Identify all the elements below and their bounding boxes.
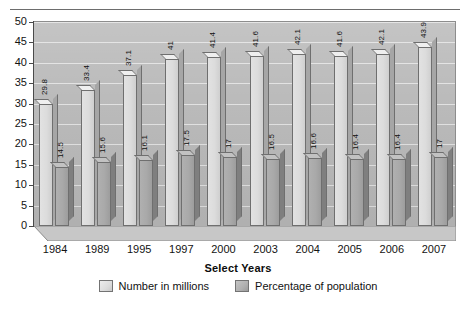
- bar-top-face: [202, 52, 221, 57]
- bar-percentage-of-population[interactable]: [223, 157, 237, 226]
- bar-value-label: 41.6: [252, 31, 260, 47]
- bar-number-in-millions[interactable]: [207, 57, 221, 226]
- bar-face: [266, 159, 280, 226]
- bar-face: [165, 59, 179, 226]
- x-axis-tick-label: 1989: [76, 243, 118, 256]
- bar-face: [55, 167, 69, 226]
- x-axis-tick-label: 1984: [34, 243, 76, 256]
- bar-value-label: 16.6: [310, 133, 318, 149]
- bar-group: 41.616.5: [250, 22, 280, 226]
- bar-percentage-of-population[interactable]: [181, 155, 195, 226]
- y-axis-tick-label: 0: [3, 220, 27, 231]
- bar-group: 41.417: [207, 22, 237, 226]
- x-axis-tick-label: 2003: [245, 243, 287, 256]
- bar-percentage-of-population[interactable]: [266, 159, 280, 226]
- y-axis-tick: [29, 226, 33, 227]
- bar-side-face: [153, 150, 158, 221]
- bar-top-face: [160, 54, 179, 59]
- bar-side-face: [406, 149, 411, 221]
- bar-percentage-of-population[interactable]: [350, 159, 364, 226]
- x-axis-tick-label: 2007: [413, 243, 455, 256]
- y-axis-tick-label: 30: [3, 98, 27, 109]
- x-axis-tick-label: 2006: [371, 243, 413, 256]
- bar-number-in-millions[interactable]: [292, 54, 306, 226]
- bar-percentage-of-population[interactable]: [434, 157, 448, 226]
- bar-percentage-of-population[interactable]: [55, 167, 69, 226]
- bar-value-label: 15.6: [99, 137, 107, 153]
- x-axis-labels: 1984198919951997200020032004200520062007: [34, 243, 455, 259]
- y-axis-tick: [29, 206, 33, 207]
- bar-top-face: [413, 42, 432, 47]
- bar-group: 42.116.6: [292, 22, 322, 226]
- y-axis-tick: [29, 144, 33, 145]
- bar-value-label: 14.5: [57, 142, 65, 158]
- x-axis-tick-label: 1995: [118, 243, 160, 256]
- bar-face: [123, 75, 137, 226]
- bar-group: 4117.5: [165, 22, 195, 226]
- bar-top-face: [245, 51, 264, 56]
- bar-value-label: 41: [167, 41, 175, 50]
- y-axis-tick-label: 35: [3, 77, 27, 88]
- bar-value-label: 42.1: [378, 29, 386, 45]
- bar-top-face: [329, 51, 348, 56]
- bar-side-face: [69, 157, 74, 221]
- y-axis-tick-label: 10: [3, 179, 27, 190]
- bar-face: [350, 159, 364, 226]
- y-axis-tick: [29, 22, 33, 23]
- bar-value-label: 17.5: [183, 130, 191, 146]
- bar-side-face: [237, 147, 242, 221]
- x-axis-title: Select Years: [0, 262, 476, 274]
- bar-top-face: [118, 70, 137, 75]
- bar-value-label: 17: [225, 139, 233, 148]
- y-axis-tick: [29, 165, 33, 166]
- bar-number-in-millions[interactable]: [39, 104, 53, 226]
- bar-side-face: [280, 149, 285, 221]
- bar-series-container: 29.814.533.415.637.116.14117.541.41741.6…: [34, 22, 455, 226]
- bar-top-face: [34, 99, 53, 104]
- legend-label-series-b: Percentage of population: [255, 280, 377, 292]
- bar-number-in-millions[interactable]: [418, 47, 432, 226]
- y-axis-tick-label: 5: [3, 200, 27, 211]
- bar-face: [207, 57, 221, 226]
- bar-side-face: [111, 152, 116, 221]
- y-axis-tick: [29, 124, 33, 125]
- bar-side-face: [448, 147, 453, 221]
- bar-percentage-of-population[interactable]: [308, 158, 322, 226]
- bar-number-in-millions[interactable]: [123, 75, 137, 226]
- bar-face: [308, 158, 322, 226]
- y-axis-tick-label: 15: [3, 159, 27, 170]
- bar-value-label: 29.8: [41, 79, 49, 95]
- bar-number-in-millions[interactable]: [250, 56, 264, 226]
- bar-percentage-of-population[interactable]: [139, 160, 153, 226]
- bar-group: 43.917: [418, 22, 448, 226]
- y-axis-tick: [29, 42, 33, 43]
- bar-face: [434, 157, 448, 226]
- bar-value-label: 41.4: [209, 32, 217, 48]
- bar-face: [181, 155, 195, 226]
- bar-value-label: 17: [436, 139, 444, 148]
- bar-chart-figure: 05101520253035404550 29.814.533.415.637.…: [0, 0, 476, 318]
- bar-top-face: [287, 49, 306, 54]
- bar-face: [376, 54, 390, 226]
- bar-percentage-of-population[interactable]: [97, 162, 111, 226]
- bar-value-label: 42.1: [294, 29, 302, 45]
- bar-top-face: [176, 150, 195, 155]
- bar-number-in-millions[interactable]: [334, 56, 348, 226]
- bar-top-face: [76, 85, 95, 90]
- bar-group: 33.415.6: [81, 22, 111, 226]
- bar-number-in-millions[interactable]: [165, 59, 179, 226]
- bar-value-label: 33.4: [83, 65, 91, 81]
- chart-legend: Number in millions Percentage of populat…: [0, 280, 476, 292]
- bar-percentage-of-population[interactable]: [392, 159, 406, 226]
- bar-face: [223, 157, 237, 226]
- y-axis-tick-label: 45: [3, 36, 27, 47]
- bar-side-face: [364, 149, 369, 221]
- bar-value-label: 16.4: [352, 134, 360, 150]
- bar-value-label: 16.4: [394, 134, 402, 150]
- y-axis-tick: [29, 185, 33, 186]
- bar-group: 42.116.4: [376, 22, 406, 226]
- bar-face: [334, 56, 348, 226]
- x-axis-tick-label: 2004: [287, 243, 329, 256]
- bar-number-in-millions[interactable]: [376, 54, 390, 226]
- bar-side-face: [195, 145, 200, 221]
